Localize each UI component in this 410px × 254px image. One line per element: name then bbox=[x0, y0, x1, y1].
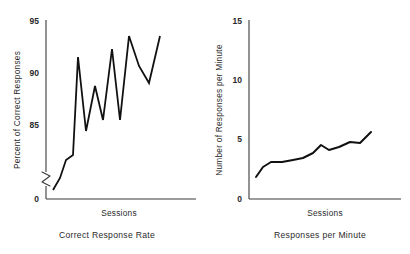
panel-responses-per-minute: Number of Responses per Minute 15 10 5 0… bbox=[205, 0, 410, 254]
right-panel-caption: Responses per Minute bbox=[274, 230, 366, 240]
right-ytick-0: 0 bbox=[237, 194, 242, 204]
right-chart-svg: Number of Responses per Minute 15 10 5 0… bbox=[205, 0, 410, 254]
right-x-axis-title: Sessions bbox=[307, 208, 343, 218]
left-ytick-90: 90 bbox=[30, 68, 40, 78]
left-ytick-95: 95 bbox=[30, 16, 40, 26]
left-x-axis-title: Sessions bbox=[101, 208, 137, 218]
right-data-series-responses-per-minute bbox=[256, 132, 371, 177]
right-y-axis-title: Number of Responses per Minute bbox=[214, 44, 224, 176]
right-ytick-5: 5 bbox=[237, 134, 242, 144]
right-ytick-10: 10 bbox=[233, 75, 243, 85]
left-y-axis-title: Percent of Correct Responses bbox=[12, 51, 22, 169]
figure-two-panel-line-charts: Percent of Correct Responses 95 90 85 0 … bbox=[0, 0, 410, 254]
left-chart-svg: Percent of Correct Responses 95 90 85 0 … bbox=[0, 0, 205, 254]
left-data-series-percent-correct bbox=[53, 36, 160, 190]
panel-correct-response-rate: Percent of Correct Responses 95 90 85 0 … bbox=[0, 0, 205, 254]
left-ytick-0: 0 bbox=[34, 194, 39, 204]
right-ytick-15: 15 bbox=[233, 16, 243, 26]
left-ytick-85: 85 bbox=[30, 120, 40, 130]
left-axis-break-icon bbox=[42, 172, 50, 186]
left-panel-caption: Correct Response Rate bbox=[59, 230, 155, 240]
